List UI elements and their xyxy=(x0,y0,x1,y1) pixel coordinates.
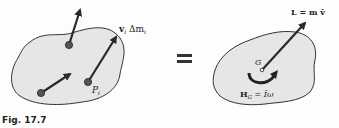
equals-sign-bottom xyxy=(177,60,192,63)
momentum-label: vi Δmi xyxy=(118,24,146,35)
equals-sign-top xyxy=(177,54,192,57)
particle-1 xyxy=(65,41,72,48)
angular-momentum-label: HG = Īω xyxy=(240,89,274,100)
particle-i xyxy=(84,78,91,85)
diagram-canvas: vi Δmi Pi G L = m v̄ HG = Īω Fig. 17.7 xyxy=(0,0,339,128)
left-rigid-body-outline xyxy=(12,28,125,105)
figure-17-7: vi Δmi Pi G L = m v̄ HG = Īω Fig. 17.7 xyxy=(0,0,339,128)
figure-caption: Fig. 17.7 xyxy=(2,115,46,125)
mass-center-label: G xyxy=(255,58,262,67)
linear-momentum-label: L = m v̄ xyxy=(291,7,325,17)
mass-center-point xyxy=(260,68,264,72)
particle-2 xyxy=(37,89,44,96)
